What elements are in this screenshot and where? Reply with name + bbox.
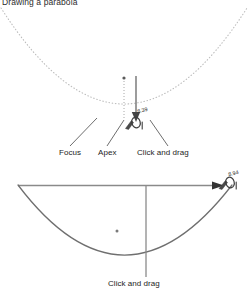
figure-page: Drawing a parabola [0,0,248,297]
preview-parabola-curve [1,8,247,104]
hand-drag-cursor-upper[interactable] [126,116,143,129]
label-apex: Apex [98,148,116,157]
label-click-and-drag-lower: Click and drag [108,279,160,288]
label-click-and-drag-upper: Click and drag [137,148,189,157]
hand-drag-cursor-lower[interactable] [219,176,236,189]
leader-line-click-and-drag [150,120,168,146]
result-parabola-curve [18,185,232,255]
leader-line-apex [107,120,124,146]
focus-dot-icon [122,76,125,79]
label-focus: Focus [59,148,81,157]
focus-dot-icon-lower [116,230,119,233]
leader-line-focus [70,118,97,146]
diagram-canvas [0,0,248,297]
